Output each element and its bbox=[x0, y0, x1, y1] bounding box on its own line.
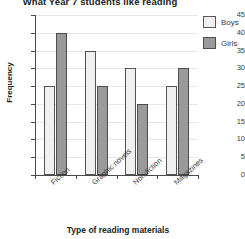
legend-label-boys: Boys bbox=[221, 18, 239, 27]
y-tick-label: 20 bbox=[215, 100, 245, 107]
y-tick-label: 10 bbox=[215, 135, 245, 142]
y-tick-label: 0 bbox=[215, 171, 245, 178]
y-tick-label: 5 bbox=[215, 153, 245, 160]
bars-layer bbox=[35, 15, 198, 175]
chart-title: What Year 7 students like reading bbox=[0, 0, 200, 7]
legend-item-boys[interactable]: Boys bbox=[203, 16, 239, 28]
x-tick-mark bbox=[117, 175, 118, 179]
bar-boys-non-fiction bbox=[125, 68, 136, 175]
bar-boys-fiction bbox=[44, 86, 55, 175]
bar-girls-graphic-novels bbox=[97, 86, 108, 175]
legend-label-girls: Girls bbox=[221, 39, 237, 48]
legend-item-girls[interactable]: Girls bbox=[203, 37, 239, 49]
legend-swatch-girls bbox=[203, 37, 216, 49]
bar-chart: What Year 7 students like reading 051015… bbox=[0, 0, 245, 239]
legend: BoysGirls bbox=[203, 16, 239, 58]
bar-boys-magazines bbox=[166, 86, 177, 175]
y-tick-label: 25 bbox=[215, 82, 245, 89]
bar-girls-fiction bbox=[56, 33, 67, 175]
y-tick-label: 30 bbox=[215, 64, 245, 71]
x-axis-title: Type of reading materials bbox=[28, 225, 208, 235]
bar-girls-magazines bbox=[178, 68, 189, 175]
y-tick-label: 15 bbox=[215, 118, 245, 125]
x-tick-mark bbox=[157, 175, 158, 179]
x-tick-mark bbox=[35, 175, 36, 179]
legend-swatch-boys bbox=[203, 16, 216, 28]
x-tick-mark bbox=[198, 175, 199, 179]
bar-boys-graphic-novels bbox=[85, 51, 96, 175]
x-tick-mark bbox=[76, 175, 77, 179]
y-axis-title: Frequency bbox=[5, 48, 14, 118]
